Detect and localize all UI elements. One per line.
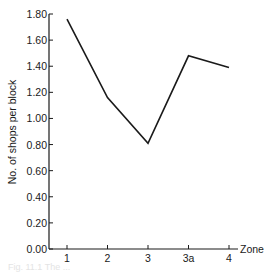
x-tick-label: 4: [226, 252, 232, 264]
y-tick-label: 0.00: [27, 243, 48, 255]
x-axis: 1233a4: [49, 245, 238, 264]
line-chart: 0.000.200.400.600.801.001.201.401.601.80…: [0, 0, 270, 273]
y-tick-label: 0.60: [27, 165, 48, 177]
x-tick-label: 2: [105, 252, 111, 264]
y-tick-label: 0.80: [27, 139, 48, 151]
y-tick-label: 1.40: [27, 60, 48, 72]
x-tick-label: 3a: [183, 252, 195, 264]
figure-caption: Fig. 11.1 The ...: [8, 262, 70, 272]
y-axis-title: No. of shops per block: [6, 79, 18, 184]
y-tick-label: 1.00: [27, 112, 48, 124]
y-tick-label: 1.60: [27, 34, 48, 46]
y-tick-label: 0.40: [27, 191, 48, 203]
y-tick-label: 1.20: [27, 86, 48, 98]
data-line: [67, 19, 229, 143]
y-tick-label: 0.20: [27, 217, 48, 229]
x-tick-label: 3: [145, 252, 151, 264]
y-tick-label: 1.80: [27, 8, 48, 20]
y-axis: 0.000.200.400.600.801.001.201.401.601.80: [27, 8, 53, 255]
x-axis-title: Zone: [240, 243, 264, 255]
